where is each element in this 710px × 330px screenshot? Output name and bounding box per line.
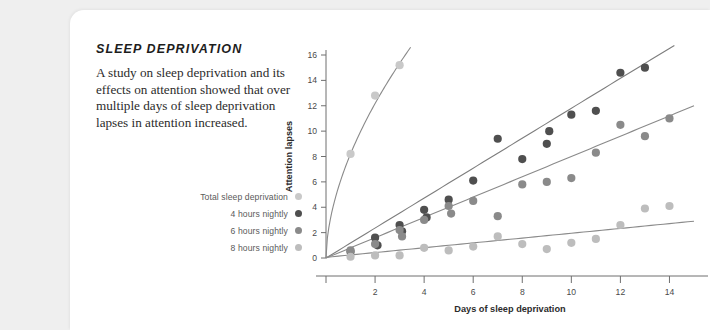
data-point — [641, 132, 649, 140]
data-point — [592, 149, 600, 157]
data-point — [494, 135, 502, 143]
data-point — [518, 240, 526, 248]
data-point — [567, 111, 575, 119]
x-tick-label: 6 — [471, 287, 476, 297]
data-point — [371, 92, 379, 100]
data-point — [346, 150, 354, 158]
data-point — [398, 232, 406, 240]
data-point — [592, 235, 600, 243]
data-point — [371, 251, 379, 259]
y-tick-label: 12 — [307, 101, 317, 111]
data-point — [641, 64, 649, 72]
data-point — [543, 178, 551, 186]
data-point — [616, 121, 624, 129]
y-tick-label: 16 — [307, 50, 317, 60]
data-point — [543, 245, 551, 253]
data-point — [518, 155, 526, 163]
data-point — [616, 221, 624, 229]
scatter-chart: 02468101214162468101214Days of sleep dep… — [242, 10, 710, 320]
x-tick-label: 8 — [520, 287, 525, 297]
y-tick-label: 8 — [312, 152, 317, 162]
y-tick-label: 10 — [307, 126, 317, 136]
data-point — [420, 206, 428, 214]
data-point — [445, 246, 453, 254]
trend-line — [326, 106, 694, 258]
series-points — [346, 202, 673, 261]
data-point — [665, 202, 673, 210]
data-point — [445, 202, 453, 210]
y-tick-label: 14 — [307, 75, 317, 85]
data-point — [396, 61, 404, 69]
x-tick-label: 10 — [567, 287, 577, 297]
y-tick-label: 4 — [312, 202, 317, 212]
x-axis-title: Days of sleep deprivation — [454, 304, 566, 314]
data-point — [469, 197, 477, 205]
data-point — [665, 114, 673, 122]
data-point — [592, 107, 600, 115]
chart-svg: 02468101214162468101214Days of sleep dep… — [242, 10, 710, 320]
x-tick-label: 12 — [616, 287, 626, 297]
data-point — [616, 69, 624, 77]
y-tick-label: 6 — [312, 177, 317, 187]
data-point — [518, 180, 526, 188]
data-point — [396, 251, 404, 259]
series-points — [346, 64, 649, 256]
y-axis-title: Attention lapses — [284, 121, 294, 192]
series-points — [346, 114, 673, 254]
data-point — [469, 177, 477, 185]
data-point — [420, 244, 428, 252]
x-tick-label: 14 — [665, 287, 675, 297]
trend-line — [326, 221, 694, 257]
data-point — [420, 216, 428, 224]
data-point — [567, 239, 575, 247]
data-point — [447, 209, 455, 217]
x-tick-label: 2 — [373, 287, 378, 297]
data-point — [494, 212, 502, 220]
data-point — [641, 204, 649, 212]
y-tick-label: 2 — [312, 228, 317, 238]
info-card: SLEEP DEPRIVATION A study on sleep depri… — [70, 10, 710, 330]
data-point — [567, 174, 575, 182]
data-point — [494, 232, 502, 240]
data-point — [346, 253, 354, 261]
data-point — [545, 127, 553, 135]
data-point — [469, 242, 477, 250]
data-point — [543, 140, 551, 148]
data-point — [371, 240, 379, 248]
y-tick-label: 0 — [312, 253, 317, 263]
x-tick-label: 4 — [422, 287, 427, 297]
